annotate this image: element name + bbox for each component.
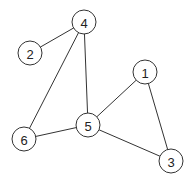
node-3: 3 [159,149,183,173]
edge-4-5 [84,22,88,125]
nodes-layer: 123456 [12,10,183,173]
node-5: 5 [76,113,100,137]
node-1: 1 [133,60,157,84]
node-label: 2 [26,47,33,62]
edge-5-3 [88,125,171,161]
node-label: 5 [84,119,91,134]
node-label: 3 [167,155,174,170]
node-6: 6 [12,127,36,151]
node-label: 1 [141,66,148,81]
graph-diagram: 123456 [0,0,194,181]
node-2: 2 [18,41,42,65]
node-label: 4 [80,16,87,31]
node-4: 4 [72,10,96,34]
node-label: 6 [20,133,27,148]
edges-layer [24,22,171,161]
edge-1-3 [145,72,171,161]
